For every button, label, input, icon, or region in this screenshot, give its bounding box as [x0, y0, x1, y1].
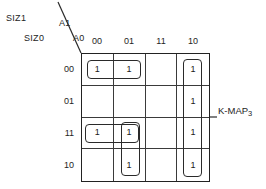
kmap-cell-r0c2 — [146, 54, 178, 86]
kmap-cell-r3c0 — [82, 149, 114, 181]
column-header-0: 00 — [81, 36, 113, 46]
column-variable-a1-label: A1 — [59, 18, 71, 28]
kmap-group-col10-all-rows — [183, 59, 202, 177]
column-header-1: 01 — [113, 36, 145, 46]
kmap-caption: K-MAP3 — [218, 105, 252, 118]
column-header-3: 10 — [177, 36, 209, 46]
kmap-cell-r1c1 — [114, 86, 146, 118]
row-variable-siz1-label: SIZ1 — [6, 13, 26, 23]
kmap-cell-r1c2 — [146, 86, 178, 118]
kmap-caption-text: K-MAP — [218, 105, 248, 116]
kmap-cell-r2c2 — [146, 118, 178, 150]
kmap-group-col01-rows11-10 — [121, 122, 140, 176]
kmap-cell-r1c0 — [82, 86, 114, 118]
row-header-3: 10 — [50, 160, 74, 170]
row-variable-siz0-label: SIZ0 — [24, 33, 44, 43]
row-header-0: 00 — [50, 64, 74, 74]
kmap-figure: SIZ1 A1 A0 SIZ0 00 01 11 10 00 01 11 10 … — [0, 0, 266, 189]
kmap-group-row00-cols00-01 — [87, 60, 141, 79]
column-header-2: 11 — [145, 36, 177, 46]
row-header-2: 11 — [50, 128, 74, 138]
kmap-cell-r3c2 — [146, 149, 178, 181]
row-header-1: 01 — [50, 96, 74, 106]
kmap-grid: 1 1 1 1 1 1 1 1 1 — [81, 53, 210, 182]
kmap-caption-subscript: 3 — [248, 109, 252, 118]
